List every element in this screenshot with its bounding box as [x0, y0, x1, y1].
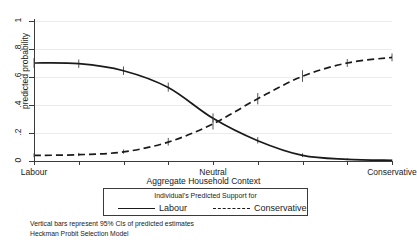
- legend-item-labour[interactable]: Labour: [118, 203, 187, 213]
- y-axis-title: predicted probability: [20, 16, 30, 126]
- plot-area: [34, 21, 392, 161]
- y-tick-label-1: .2: [13, 124, 23, 140]
- legend-entries: Labour Conservative: [104, 203, 307, 215]
- line-conservative: [34, 57, 392, 155]
- legend-label-labour: Labour: [159, 203, 187, 213]
- legend-label-conservative: Conservative: [254, 203, 307, 213]
- note-confidence-intervals: Vertical bars represent 95% CIs of predi…: [30, 219, 194, 229]
- x-tick-7: [347, 161, 348, 165]
- y-axis-line: [34, 19, 35, 163]
- series-labour: [34, 58, 392, 161]
- chart-title: [0, 0, 407, 1]
- x-tick-1: [79, 161, 80, 165]
- y-tick-label-0: 0: [13, 152, 23, 168]
- x-tick-6: [303, 161, 304, 165]
- x-tick-8: [392, 161, 393, 165]
- y-tick-1: [29, 133, 34, 134]
- x-tick-2: [124, 161, 125, 165]
- series-layer: [34, 21, 392, 161]
- legend-title: Individual's Predicted Support for: [104, 192, 307, 199]
- series-conservative: [34, 53, 392, 157]
- x-tick-0: [34, 161, 35, 165]
- note-model: Heckman Probit Selection Model: [30, 229, 194, 239]
- legend: Individual's Predicted Support for Labou…: [103, 188, 308, 216]
- x-tick-4: [213, 161, 214, 165]
- x-tick-3: [168, 161, 169, 165]
- x-axis-title: Aggregate Household Context: [0, 176, 407, 186]
- x-tick-5: [258, 161, 259, 165]
- line-labour: [34, 63, 392, 160]
- legend-item-conservative[interactable]: Conservative: [213, 203, 307, 213]
- chart-notes: Vertical bars represent 95% CIs of predi…: [30, 219, 194, 239]
- legend-swatch-dashed-line: [213, 208, 250, 209]
- legend-swatch-solid-line: [118, 208, 155, 209]
